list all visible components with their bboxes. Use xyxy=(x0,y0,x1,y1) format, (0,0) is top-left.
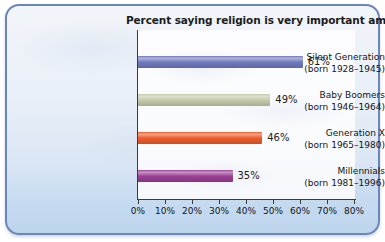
bar-value-generation-x: 46% xyxy=(267,132,289,144)
x-axis-tick-label: 80% xyxy=(344,206,364,216)
x-axis-tick-label: 60% xyxy=(290,206,310,216)
x-axis-tick xyxy=(327,200,328,204)
chart-card: Percent saying religion is very importan… xyxy=(0,0,385,242)
x-axis-tick xyxy=(273,200,274,204)
x-axis-tick xyxy=(219,200,220,204)
chart-title: Percent saying religion is very importan… xyxy=(126,14,376,26)
x-axis-tick xyxy=(165,200,166,204)
x-axis-tick-label: 30% xyxy=(209,206,229,216)
x-axis-tick-label: 50% xyxy=(263,206,283,216)
x-axis-tick-label: 40% xyxy=(236,206,256,216)
x-axis-tick xyxy=(138,200,139,204)
bar-value-baby-boomers: 49% xyxy=(275,94,297,106)
x-axis-tick-label: 20% xyxy=(182,206,202,216)
x-axis-tick-label: 70% xyxy=(317,206,337,216)
category-name: Millennials xyxy=(253,166,385,178)
x-axis-tick xyxy=(300,200,301,204)
category-name: Baby Boomers xyxy=(253,90,385,102)
category-birth-years: (born 1946–1964) xyxy=(253,102,385,114)
bar-silent-generation xyxy=(138,56,303,68)
x-axis-tick-label: 0% xyxy=(131,206,145,216)
x-axis-tick-label: 10% xyxy=(155,206,175,216)
bar-value-millennials: 35% xyxy=(238,170,260,182)
bar-generation-x xyxy=(138,132,262,144)
bar-baby-boomers xyxy=(138,94,270,106)
bar-value-silent-generation: 61% xyxy=(308,56,330,68)
bar-millennials xyxy=(138,170,233,182)
x-axis-tick xyxy=(246,200,247,204)
category-label-baby-boomers: Baby Boomers (born 1946–1964) xyxy=(253,90,385,113)
category-birth-years: (born 1981–1996) xyxy=(253,178,385,190)
x-axis-tick xyxy=(192,200,193,204)
x-axis-tick xyxy=(354,200,355,204)
category-label-millennials: Millennials (born 1981–1996) xyxy=(253,166,385,189)
